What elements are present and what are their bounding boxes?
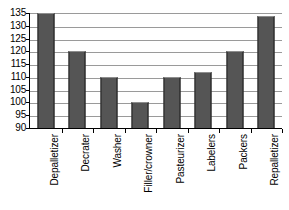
- y-tick-label: 120: [0, 46, 26, 56]
- bar[interactable]: [100, 77, 117, 128]
- y-tick-label: 105: [0, 85, 26, 95]
- bar[interactable]: [163, 77, 180, 128]
- bar[interactable]: [195, 72, 212, 128]
- bar-slot: [62, 13, 94, 128]
- x-label-slot: Repalletizer: [251, 134, 283, 210]
- y-axis-tick-labels: 9095100105110115120125130135: [0, 8, 26, 128]
- x-tick-mark: [125, 129, 126, 133]
- x-label-slot: Labelers: [188, 134, 220, 210]
- y-tick-label: 95: [0, 110, 26, 120]
- y-tick-label: 135: [0, 8, 26, 18]
- y-tick-label: 125: [0, 34, 26, 44]
- bar[interactable]: [37, 13, 54, 128]
- x-label-slot: Pasteurizer: [156, 134, 188, 210]
- x-tick-label: Filler/crowner: [144, 134, 154, 193]
- bar-slot: [219, 13, 251, 128]
- bar-chart: 9095100105110115120125130135 Depalletize…: [0, 0, 289, 210]
- bar-slot: [188, 13, 220, 128]
- y-tick-label: 100: [0, 97, 26, 107]
- x-label-slot: Packers: [219, 134, 251, 210]
- bar[interactable]: [226, 51, 243, 128]
- y-tick-mark: [26, 51, 30, 52]
- bar-slot: [30, 13, 62, 128]
- x-tick-mark: [188, 129, 189, 133]
- y-tick-mark: [26, 39, 30, 40]
- x-tick-mark: [93, 129, 94, 133]
- bar[interactable]: [69, 51, 86, 128]
- x-tick-mark: [62, 129, 63, 133]
- x-tick-label: Packers: [239, 134, 249, 169]
- bar[interactable]: [258, 16, 275, 128]
- y-tick-mark: [26, 64, 30, 65]
- bar[interactable]: [132, 102, 149, 128]
- x-tick-label: Decrater: [81, 134, 91, 172]
- bars-layer: [30, 13, 282, 128]
- y-tick-mark: [26, 26, 30, 27]
- y-tick-label: 90: [0, 123, 26, 133]
- x-tick-label: Washer: [113, 134, 123, 167]
- y-tick-mark: [26, 77, 30, 78]
- x-label-slot: Depalletizer: [30, 134, 62, 210]
- y-tick-label: 115: [0, 59, 26, 69]
- x-axis-tick-labels: DepalletizerDecraterWasherFiller/crowner…: [30, 134, 282, 210]
- x-tick-label: Repalletizer: [270, 134, 280, 186]
- x-label-slot: Decrater: [62, 134, 94, 210]
- y-tick-mark: [26, 128, 30, 129]
- x-tick-label: Pasteurizer: [176, 134, 186, 183]
- bar-slot: [251, 13, 283, 128]
- x-label-slot: Filler/crowner: [125, 134, 157, 210]
- x-tick-mark: [156, 129, 157, 133]
- x-tick-label: Labelers: [207, 134, 217, 172]
- y-tick-mark: [26, 13, 30, 14]
- y-tick-mark: [26, 90, 30, 91]
- bar-slot: [93, 13, 125, 128]
- bar-slot: [156, 13, 188, 128]
- x-tick-mark: [282, 129, 283, 133]
- y-tick-label: 130: [0, 21, 26, 31]
- x-tick-mark: [219, 129, 220, 133]
- x-tick-mark: [251, 129, 252, 133]
- x-label-slot: Washer: [93, 134, 125, 210]
- y-tick-mark: [26, 102, 30, 103]
- bar-slot: [125, 13, 157, 128]
- y-tick-mark: [26, 115, 30, 116]
- y-tick-label: 110: [0, 72, 26, 82]
- x-tick-label: Depalletizer: [50, 134, 60, 186]
